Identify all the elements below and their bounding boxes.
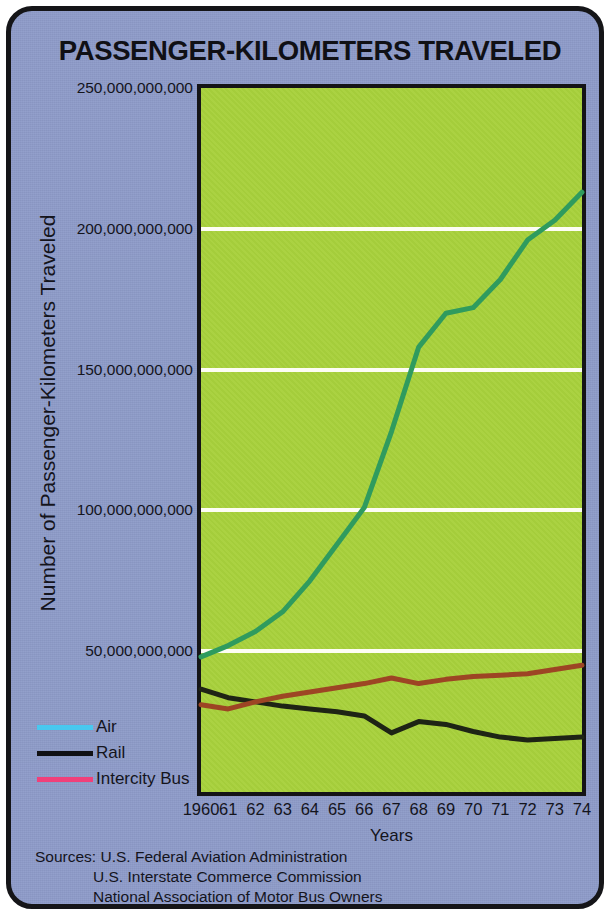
legend-item-air[interactable]: Air: [37, 714, 193, 740]
series-line-air: [201, 192, 582, 657]
x-tick-label: 67: [382, 800, 400, 819]
x-tick-label: 63: [273, 800, 291, 819]
x-tick-label: 64: [301, 800, 319, 819]
chart-legend: AirRailIntercity Bus: [37, 714, 193, 792]
legend-swatch-icon: [37, 777, 93, 782]
source-line: National Association of Motor Bus Owners: [35, 887, 382, 907]
x-tick-label: 68: [410, 800, 428, 819]
x-tick-label: 65: [328, 800, 346, 819]
y-axis-label: Number of Passenger-Kilometers Traveled: [36, 178, 60, 648]
legend-label: Rail: [96, 743, 125, 763]
x-axis-ticks: 19606162636465666768697071727374: [197, 800, 586, 824]
x-tick-label: 70: [464, 800, 482, 819]
y-tick-label: 250,000,000,000: [17, 79, 193, 97]
x-tick-label: 72: [518, 800, 536, 819]
source-line: Sources: U.S. Federal Aviation Administr…: [35, 847, 382, 867]
sources-note: Sources: U.S. Federal Aviation Administr…: [35, 847, 382, 907]
x-tick-label: 71: [491, 800, 509, 819]
x-tick-label: 74: [573, 800, 591, 819]
legend-label: Air: [96, 717, 117, 737]
x-tick-label: 62: [246, 800, 264, 819]
series-line-intercity-bus: [201, 665, 582, 709]
x-tick-label: 69: [437, 800, 455, 819]
x-tick-label: 1960: [183, 800, 220, 819]
legend-item-rail[interactable]: Rail: [37, 740, 193, 766]
legend-swatch-icon: [37, 751, 93, 756]
x-tick-label: 66: [355, 800, 373, 819]
x-tick-label: 73: [546, 800, 564, 819]
x-axis-label: Years: [197, 826, 586, 846]
series-line-rail: [201, 689, 582, 740]
source-line: U.S. Interstate Commerce Commission: [35, 867, 382, 887]
chart-card: PASSENGER-KILOMETERS TRAVELED 50,000,000…: [6, 6, 604, 909]
legend-swatch-icon: [37, 725, 93, 730]
legend-item-intercity-bus[interactable]: Intercity Bus: [37, 766, 193, 792]
legend-label: Intercity Bus: [96, 769, 190, 789]
chart-title: PASSENGER-KILOMETERS TRAVELED: [11, 35, 604, 67]
x-tick-label: 61: [219, 800, 237, 819]
plot-area: [197, 84, 586, 796]
series-layer: [197, 84, 586, 796]
